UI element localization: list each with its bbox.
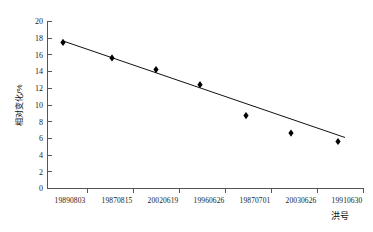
y-tick-label: 10 [35, 101, 43, 110]
chart-page: 0 2 4 6 8 10 12 14 16 18 20 相对变化/% 19890… [0, 0, 373, 232]
data-point [60, 39, 65, 46]
y-tick-label: 0 [39, 184, 43, 193]
x-tick-label: 19870815 [102, 196, 133, 205]
y-tick-label: 18 [35, 34, 43, 43]
y-axis-ticks [48, 22, 53, 189]
x-axis-ticks [87, 189, 363, 194]
y-tick-label: 4 [39, 151, 43, 160]
y-tick-label: 6 [39, 134, 43, 143]
x-tick-label: 19910630 [332, 196, 363, 205]
y-axis-tick-labels: 0 2 4 6 8 10 12 14 16 18 20 [35, 17, 43, 193]
x-tick-label: 20030626 [286, 196, 317, 205]
x-tick-label: 19890803 [55, 196, 86, 205]
x-tick-label: 19870701 [240, 196, 271, 205]
y-tick-label: 8 [39, 118, 43, 127]
y-tick-label: 16 [35, 51, 43, 60]
x-tick-label: 20020619 [148, 196, 179, 205]
data-point [109, 54, 114, 61]
y-tick-label: 12 [35, 84, 43, 93]
y-tick-label: 2 [39, 168, 43, 177]
x-axis-tick-labels: 19890803 19870815 20020619 19960626 1987… [55, 196, 363, 205]
scatter-chart: 0 2 4 6 8 10 12 14 16 18 20 相对变化/% 19890… [0, 0, 373, 232]
x-axis-title: 洪号 [331, 210, 349, 221]
data-point [243, 112, 248, 119]
y-tick-label: 14 [35, 67, 43, 76]
trend-line [62, 41, 345, 138]
data-point [288, 130, 293, 137]
x-tick-label: 19960626 [194, 196, 225, 205]
y-tick-label: 20 [35, 17, 43, 26]
data-point [335, 138, 340, 145]
y-axis-title: 相对变化/% [14, 84, 24, 125]
